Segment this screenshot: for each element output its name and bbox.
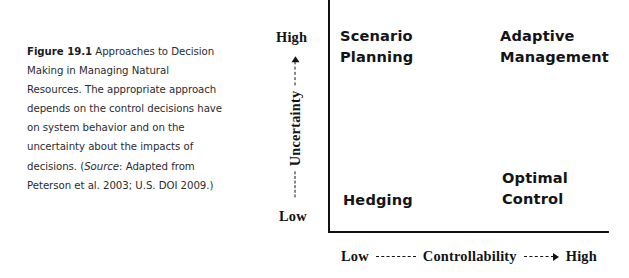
y-axis-dashed-line-low [295, 171, 296, 197]
y-axis-tick-high: High [276, 29, 307, 46]
y-axis-dashed-arrow-high [290, 57, 300, 86]
x-axis-tick-high: High [566, 248, 597, 265]
quadrant-label-hedging: Hedging [343, 190, 413, 211]
quadrant-label-adaptive-management: Adaptive Management [500, 26, 609, 67]
y-axis-line [328, 0, 330, 233]
x-axis-arrowhead-icon [553, 253, 559, 261]
x-axis-line [328, 231, 609, 233]
x-axis-dashed-arrow-high [524, 252, 559, 262]
figure-caption-body-before: Approaches to Decision Making in Managin… [27, 46, 222, 172]
y-axis-tick-low: Low [279, 208, 307, 225]
quadrant-label-scenario-planning: Scenario Planning [340, 26, 413, 67]
y-axis-title-group: Uncertainty [283, 48, 307, 206]
figure-caption-label: Figure 19.1 [27, 46, 92, 57]
figure-caption-source-word: Source [84, 161, 119, 172]
x-axis-tick-low: Low [341, 248, 369, 265]
y-axis-title-label: Uncertainty [287, 91, 304, 167]
figure-caption: Figure 19.1 Approaches to Decision Makin… [27, 42, 223, 195]
figure-19-1: Figure 19.1 Approaches to Decision Makin… [0, 0, 629, 278]
y-axis-arrowhead-icon [291, 57, 299, 63]
x-axis-title-group: Low Controllability High [327, 248, 611, 265]
x-axis-dashed-line-low [376, 256, 416, 257]
x-axis-title-label: Controllability [423, 248, 517, 265]
quadrant-label-optimal-control: Optimal Control [502, 168, 568, 209]
